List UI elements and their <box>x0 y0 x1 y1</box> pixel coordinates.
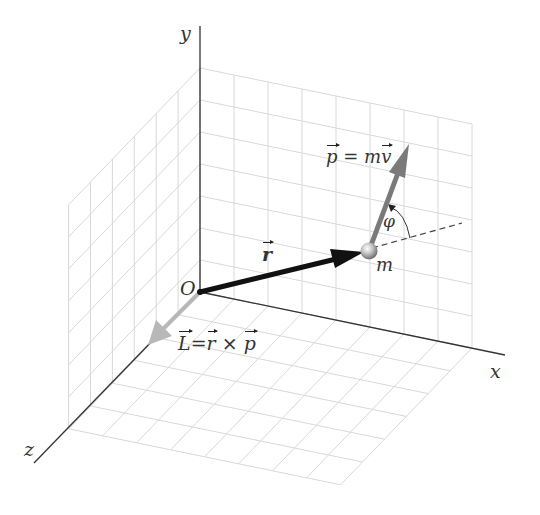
z-axis-label: z <box>24 440 34 459</box>
r-symbol: r <box>207 334 216 353</box>
v-symbol: v <box>381 148 391 166</box>
position-vector-label: r <box>262 245 272 264</box>
angular-momentum-equation: L=r × p <box>178 334 256 353</box>
mass-label: m <box>376 256 393 274</box>
L-symbol: L <box>178 334 191 353</box>
diagram-canvas: y x z O r p = mv L=r × p m φ <box>0 0 540 515</box>
momentum-equation: p = mv <box>326 148 391 166</box>
x-axis-label: x <box>490 362 501 381</box>
p-symbol: p <box>244 334 256 353</box>
p-symbol: p <box>326 148 338 166</box>
equals-sign: = <box>343 146 358 167</box>
origin-label: O <box>180 279 196 298</box>
particle-sphere <box>361 243 378 260</box>
position-vector <box>200 249 364 292</box>
origin-point <box>197 289 203 295</box>
angle-label: φ <box>383 213 395 230</box>
equals-sign: = <box>191 332 207 354</box>
y-axis-label: y <box>180 24 191 43</box>
r-symbol: r <box>262 245 272 264</box>
m-symbol: m <box>364 146 381 167</box>
cross-sign: × <box>222 332 238 354</box>
